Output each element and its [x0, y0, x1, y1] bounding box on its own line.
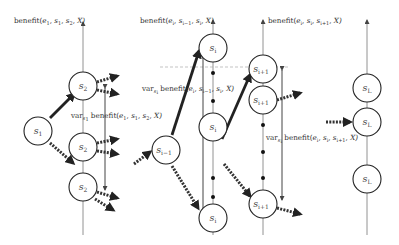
edge-s2-mid-out-1 [97, 139, 117, 143]
variance-label-col-2: vars1 benefit(e1, s1, s2, X) [70, 111, 162, 122]
edge-s-im1-to-si-alt [172, 166, 198, 208]
node-s-im1: si−1 [152, 136, 180, 164]
edge-s2-top-out-2 [97, 90, 117, 94]
node-si-mid: si [199, 113, 227, 141]
node-si-top: si [199, 34, 227, 62]
axis-label-col-i+1: benefit(ei, si, si+1, X) [268, 16, 342, 26]
edge-sip1-bot-out [277, 208, 300, 214]
edge-s2-bot-out-1 [97, 192, 117, 198]
edge-into-s-im1 [134, 152, 150, 164]
node-s2-top: s2 [69, 72, 97, 100]
node-sip1-top: si+1 [249, 55, 277, 83]
node-s2-mid: s2 [69, 133, 97, 161]
axis-label-col-2: benefit(e1, s1, s2, X) [14, 16, 85, 26]
node-sL-bot: sL [353, 165, 381, 193]
edge-s2-bot-out-2 [95, 199, 113, 210]
node-sL-mid: sL [353, 108, 381, 136]
edge-si-to-sip1-alt [224, 164, 250, 196]
node-si-bot: si [199, 204, 227, 232]
node-sL-top: sL [353, 74, 381, 102]
node-s2-bot: s2 [69, 173, 97, 201]
edge-s-im1-to-si-best [172, 51, 199, 135]
edge-sip1-mid-out [277, 93, 300, 100]
edge-s2-mid-out-2 [97, 151, 117, 154]
variance-label-col-i+1: varsi benefit(ei, si, si+1, X) [265, 133, 358, 144]
edge-s2-top-out-1 [97, 76, 117, 82]
axis-label-col-i: benefit(ei, si−1, si, X) [140, 16, 214, 26]
node-sip1-bot: si+1 [249, 190, 277, 218]
node-s1: s1 [24, 117, 52, 145]
diagram-canvas: benefit(e1, s1, s2, X) benefit(ei, si−1,… [0, 0, 399, 245]
node-sip1-mid: si+1 [249, 86, 277, 114]
search-tree-diagram: benefit(e1, s1, s2, X) benefit(ei, si−1,… [0, 0, 399, 245]
